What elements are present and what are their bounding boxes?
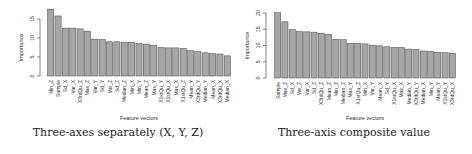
- x-tick-label: X3rdQu_Z: [77, 80, 83, 103]
- bar: [275, 13, 281, 78]
- x-tick-label: X1stQu_Z: [180, 80, 186, 103]
- x-tick-label: Var_Z: [107, 80, 113, 93]
- right-chart-panel: 05101520ImportanceSampleMax_ZSd_XVar_ZVa…: [236, 0, 472, 154]
- x-tick-label: Var_X: [304, 81, 310, 95]
- x-tick-label: Sd_X: [62, 79, 68, 92]
- x-tick-label: Max_Z: [282, 82, 288, 97]
- bar-chart-composite-value: 05101520ImportanceSampleMax_ZSd_XVar_ZVa…: [236, 0, 472, 125]
- bar: [99, 40, 105, 76]
- bar: [210, 54, 216, 76]
- x-tick-label: Mean_Z: [326, 82, 332, 100]
- bar: [129, 42, 135, 76]
- y-tick-label: 5: [29, 55, 35, 58]
- x-tick-label: Sample: [275, 82, 281, 99]
- y-tick-label: 10: [255, 42, 261, 48]
- bar: [224, 56, 230, 76]
- x-tick-label: Median_Z: [340, 82, 346, 104]
- x-tick-label: X1stQu_X: [165, 79, 171, 102]
- bar: [420, 51, 426, 78]
- y-axis-label: Importance: [244, 32, 250, 60]
- bar: [398, 47, 404, 78]
- y-axis-label: Importance: [18, 34, 24, 62]
- bar: [180, 49, 186, 76]
- bar: [427, 51, 433, 78]
- x-tick-label: Var_X: [70, 79, 76, 93]
- bar: [435, 52, 441, 78]
- bar: [311, 32, 317, 78]
- bar: [289, 30, 295, 78]
- x-tick-label: X1stQu_Z: [355, 82, 361, 105]
- x-tick-label: Max_X: [173, 79, 179, 95]
- y-tick-label: 5: [255, 60, 261, 63]
- bar: [318, 33, 324, 78]
- x-tick-label: Max_X: [398, 81, 404, 97]
- y-tick-label: 0: [255, 76, 261, 79]
- bar: [151, 45, 157, 76]
- x-tick-label: X1stQu_Y: [158, 79, 164, 102]
- x-tick-label: X1stQu_X: [391, 81, 397, 104]
- bar: [114, 42, 120, 76]
- bar: [217, 54, 223, 76]
- x-tick-label: Min_Y: [136, 79, 142, 94]
- x-tick-label: Min_X: [129, 79, 135, 94]
- x-tick-label: X3rdQu_Y: [413, 81, 419, 105]
- bar: [106, 42, 112, 76]
- x-tick-label: Sd_Z: [114, 80, 120, 92]
- bar: [84, 31, 90, 76]
- x-tick-label: Sample: [55, 80, 61, 97]
- bar: [282, 22, 288, 78]
- x-tick-label: Mean_Y: [435, 81, 441, 100]
- x-tick-label: Max_Y: [347, 81, 353, 97]
- y-tick-label: 0: [29, 74, 35, 77]
- bar: [333, 39, 339, 78]
- bar: [158, 48, 164, 77]
- x-tick-label: X1stQu_Y: [442, 81, 448, 104]
- bar: [391, 47, 397, 78]
- bar: [195, 52, 201, 76]
- x-tick-label: Max_Y: [151, 79, 157, 95]
- bar: [442, 53, 448, 78]
- x-axis-label: Feature vectors: [346, 115, 384, 121]
- bar: [55, 16, 61, 76]
- bar: [136, 44, 142, 76]
- y-tick-label: 10: [29, 35, 35, 41]
- bar: [62, 28, 68, 76]
- bar: [377, 46, 383, 78]
- y-tick-label: 20: [255, 10, 261, 16]
- x-tick-label: Max_Z: [84, 80, 90, 95]
- x-tick-label: X3rdQu_Z: [318, 82, 324, 105]
- bar: [449, 53, 455, 78]
- x-tick-label: Mean_Z: [143, 80, 149, 98]
- x-tick-label: Min_Z: [333, 82, 339, 96]
- x-tick-label: Mean_Y: [188, 79, 194, 98]
- bar: [369, 45, 375, 78]
- bar-chart-three-axes-separately: 051015ImportanceMin_ZSampleSd_XVar_XX3rd…: [0, 0, 236, 125]
- x-tick-label: Median_Z: [121, 80, 127, 102]
- bar: [143, 44, 149, 76]
- x-tick-label: Mean_X: [377, 81, 383, 100]
- bar: [48, 9, 54, 76]
- bar: [413, 49, 419, 78]
- bar: [77, 29, 83, 76]
- bar: [384, 47, 390, 78]
- x-tick-label: X3rdQu_X: [217, 79, 223, 103]
- x-tick-label: Sd_Y: [384, 81, 390, 94]
- bar: [121, 42, 127, 76]
- y-tick-label: 15: [255, 26, 261, 32]
- bar: [347, 43, 353, 78]
- x-tick-label: Min_Z: [48, 80, 54, 94]
- caption-right: Three-axis composite value: [236, 126, 472, 139]
- x-tick-label: Median_X: [420, 81, 426, 104]
- x-tick-label: X3rdQu_Y: [195, 79, 201, 103]
- x-tick-label: Var_Y: [92, 79, 98, 93]
- x-tick-label: Median_X: [224, 79, 230, 102]
- bar: [304, 32, 310, 78]
- bar: [406, 49, 412, 78]
- x-tick-label: Sd_Y: [99, 79, 105, 92]
- bar: [340, 40, 346, 78]
- x-tick-label: Sd_X: [289, 81, 295, 94]
- bar: [92, 39, 98, 76]
- bar: [187, 51, 193, 76]
- x-tick-label: Mean_X: [210, 79, 216, 98]
- x-axis-label: Feature vectors: [120, 115, 158, 121]
